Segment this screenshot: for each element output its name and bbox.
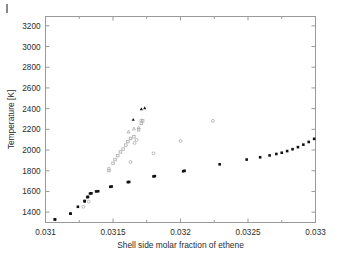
- data-point-open-triangle: [127, 130, 130, 133]
- data-point-open-circle: [129, 160, 132, 163]
- x-tick-label: 0.033: [305, 228, 326, 237]
- data-point-open-square: [114, 158, 117, 161]
- data-point-filled-square: [307, 141, 310, 144]
- data-point-open-square: [112, 162, 115, 165]
- data-point-filled-triangle: [140, 107, 143, 110]
- y-tick-label: 1800: [22, 167, 41, 176]
- data-point-filled-square: [69, 212, 72, 215]
- data-point-filled-square: [183, 169, 186, 172]
- data-point-filled-square: [302, 143, 305, 146]
- data-point-open-circle: [211, 119, 214, 122]
- data-point-filled-square: [90, 192, 93, 195]
- data-point-filled-square: [245, 158, 248, 161]
- y-tick-label: 2600: [22, 84, 41, 93]
- y-tick-label: 2800: [22, 63, 41, 72]
- data-point-open-triangle: [132, 127, 135, 130]
- data-point-open-triangle: [137, 126, 140, 129]
- data-point-filled-square: [77, 205, 80, 208]
- data-point-open-circle: [152, 152, 155, 155]
- data-point-filled-square: [291, 148, 294, 151]
- x-tick-label: 0.0315: [100, 228, 125, 237]
- x-tick-label: 0.032: [170, 228, 191, 237]
- y-tick-label: 1400: [22, 208, 41, 217]
- data-point-filled-square: [286, 150, 289, 153]
- data-point-filled-triangle: [132, 118, 135, 121]
- data-point-open-square: [122, 148, 125, 151]
- plot-box: [46, 17, 316, 223]
- data-point-open-circle: [135, 138, 138, 141]
- data-point-filled-square: [154, 175, 157, 178]
- data-point-filled-square: [268, 154, 271, 157]
- figure-panel: 0.0310.03150.0320.03250.0331400160018002…: [0, 0, 340, 259]
- data-point-filled-square: [83, 200, 86, 203]
- y-tick-label: 3000: [22, 43, 41, 52]
- data-point-filled-square: [54, 218, 57, 221]
- data-point-open-circle: [179, 139, 182, 142]
- data-point-open-circle: [87, 200, 90, 203]
- data-point-open-square: [127, 140, 130, 143]
- data-point-filled-square: [110, 185, 113, 188]
- x-tick-label: 0.0325: [235, 228, 260, 237]
- data-point-filled-square: [313, 138, 316, 141]
- y-tick-label: 2000: [22, 146, 41, 155]
- data-point-filled-square: [128, 181, 131, 184]
- y-axis-label: Temperature [K]: [6, 90, 16, 150]
- y-tick-label: 3200: [22, 22, 41, 31]
- data-point-open-square: [116, 154, 119, 157]
- data-point-open-square: [133, 136, 136, 139]
- data-point-filled-square: [297, 146, 300, 149]
- data-point-open-square: [125, 144, 128, 147]
- y-tick-label: 2200: [22, 125, 41, 134]
- data-point-filled-triangle: [143, 106, 146, 109]
- x-tick-label: 0.031: [35, 228, 56, 237]
- data-point-filled-square: [259, 156, 262, 159]
- data-point-filled-square: [218, 163, 221, 166]
- y-tick-label: 1600: [22, 187, 41, 196]
- data-point-filled-square: [97, 190, 100, 193]
- data-point-open-circle: [133, 142, 136, 145]
- page-corner-mark: [6, 4, 8, 13]
- y-tick-label: 2400: [22, 105, 41, 114]
- data-point-open-square: [129, 137, 132, 140]
- data-point-open-square: [119, 151, 122, 154]
- data-point-filled-square: [275, 153, 278, 156]
- data-point-filled-square: [87, 196, 90, 199]
- data-point-open-circle: [82, 205, 85, 208]
- data-point-filled-square: [280, 151, 283, 154]
- scatter-plot: 0.0310.03150.0320.03250.0331400160018002…: [0, 0, 340, 259]
- x-axis-label: Shell side molar fraction of ethene: [117, 240, 244, 250]
